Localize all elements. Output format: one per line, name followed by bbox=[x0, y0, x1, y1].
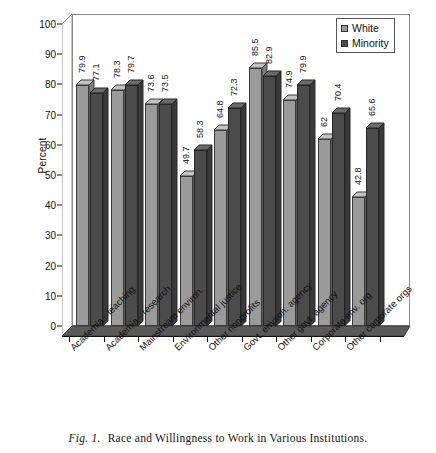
bar-group: 64.872.3 bbox=[214, 24, 249, 326]
bar-value-label: 79.7 bbox=[126, 56, 136, 74]
y-axis: 0102030405060708090100 bbox=[26, 14, 62, 336]
bar-group: 85.582.9 bbox=[249, 24, 284, 326]
bar-value-label: 73.6 bbox=[146, 74, 156, 92]
x-tick-mark bbox=[380, 336, 381, 342]
bar-value-label: 62 bbox=[319, 117, 329, 127]
bar-group: 74.979.9 bbox=[283, 24, 318, 326]
y-tick-label: 80 bbox=[28, 79, 56, 90]
figure-number: Fig. 1. bbox=[69, 432, 101, 444]
bar-value-label: 73.5 bbox=[160, 75, 170, 93]
bar-value-label: 72.3 bbox=[229, 78, 239, 96]
figure-caption: Fig. 1.Race and Willingness to Work in V… bbox=[0, 432, 436, 444]
x-tick-mark bbox=[311, 336, 312, 342]
bar-group: 78.379.7 bbox=[111, 24, 146, 326]
y-tick-label: 90 bbox=[28, 49, 56, 60]
bar-group: 73.673.5 bbox=[145, 24, 180, 326]
y-tick-label: 70 bbox=[28, 109, 56, 120]
bar-white bbox=[76, 85, 89, 326]
x-tick-mark bbox=[345, 336, 346, 342]
y-tick-label: 40 bbox=[28, 200, 56, 211]
legend-item-minority: Minority bbox=[341, 37, 389, 49]
y-tick-label: 100 bbox=[28, 19, 56, 30]
bar-value-label: 49.7 bbox=[181, 146, 191, 164]
y-tick-label: 0 bbox=[28, 321, 56, 332]
bar-face bbox=[90, 93, 103, 326]
legend-label-white: White bbox=[352, 22, 379, 34]
bar-value-label: 65.6 bbox=[367, 98, 377, 116]
y-tick-label: 30 bbox=[28, 230, 56, 241]
bar-minority bbox=[90, 93, 103, 326]
bar-group: 42.865.6 bbox=[352, 24, 387, 326]
bar-value-label: 85.5 bbox=[250, 38, 260, 56]
bar-face bbox=[249, 68, 262, 326]
bar-group: 49.758.3 bbox=[180, 24, 215, 326]
x-tick-mark bbox=[69, 336, 70, 342]
bar-value-label: 79.9 bbox=[298, 55, 308, 73]
y-tick-label: 60 bbox=[28, 139, 56, 150]
bar-value-label: 74.9 bbox=[284, 70, 294, 88]
bar-value-label: 78.3 bbox=[112, 60, 122, 78]
bar-value-label: 64.8 bbox=[215, 101, 225, 119]
y-tick-label: 50 bbox=[28, 170, 56, 181]
caption-text: Race and Willingness to Work in Various … bbox=[108, 432, 368, 444]
x-tick-mark bbox=[207, 336, 208, 342]
bar-face bbox=[263, 76, 276, 326]
bar-value-label: 77.1 bbox=[91, 64, 101, 82]
bar-value-label: 58.3 bbox=[195, 120, 205, 138]
legend-swatch-minority bbox=[341, 40, 348, 47]
legend: White Minority bbox=[336, 18, 395, 53]
legend-swatch-white bbox=[341, 25, 348, 32]
bar-white bbox=[249, 68, 262, 326]
bar-value-label: 82.9 bbox=[264, 46, 274, 64]
figure-container: Percent 0102030405060708090100 79.977.17… bbox=[0, 0, 436, 453]
bar-face bbox=[76, 85, 89, 326]
bar-value-label: 42.8 bbox=[353, 167, 363, 185]
bar-value-label: 79.9 bbox=[77, 55, 87, 73]
bar-minority bbox=[263, 76, 276, 326]
x-tick-mark bbox=[138, 336, 139, 342]
y-tick-label: 10 bbox=[28, 290, 56, 301]
x-tick-mark bbox=[276, 336, 277, 342]
bar-group: 6270.4 bbox=[318, 24, 353, 326]
bar-group: 79.977.1 bbox=[76, 24, 111, 326]
bar-value-label: 70.4 bbox=[333, 84, 343, 102]
x-tick-mark bbox=[173, 336, 174, 342]
y-tick-label: 20 bbox=[28, 260, 56, 271]
x-tick-mark bbox=[104, 336, 105, 342]
legend-item-white: White bbox=[341, 22, 389, 34]
x-tick-mark bbox=[242, 336, 243, 342]
legend-label-minority: Minority bbox=[352, 37, 389, 49]
